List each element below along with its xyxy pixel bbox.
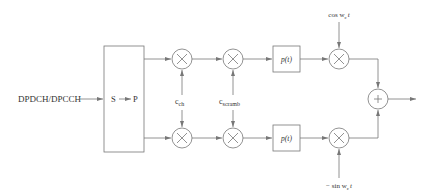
multiplier-carrier-top (329, 49, 349, 69)
pulse-shaping-top: p(t) (273, 46, 300, 72)
cos-carrier-label: cos wct (328, 11, 350, 20)
multiplier-ch-bottom (172, 128, 192, 148)
c-scramb-label: cscramb (219, 97, 240, 107)
svg-text:p(t): p(t) (280, 134, 292, 143)
bottom-to-adder-line (349, 110, 378, 138)
input-label: DPDCH/DPCCH (18, 94, 82, 104)
sp-p-label: P (133, 94, 138, 104)
top-to-adder-line (349, 59, 378, 88)
serial-to-parallel-block: S P (104, 46, 144, 152)
multiplier-ch-top (172, 49, 192, 69)
c-ch-label: cch (175, 97, 184, 107)
adder (368, 89, 388, 109)
multiplier-scramb-bottom (223, 128, 243, 148)
multiplier-carrier-bottom (329, 128, 349, 148)
sin-carrier-label: − sin wct (326, 182, 353, 191)
block-diagram: DPDCH/DPCCH S P cch cscramb p(t) (0, 0, 436, 196)
sp-s-label: S (111, 94, 116, 104)
pulse-shaping-bottom: p(t) (273, 125, 300, 151)
multiplier-scramb-top (223, 49, 243, 69)
svg-text:p(t): p(t) (280, 55, 292, 64)
